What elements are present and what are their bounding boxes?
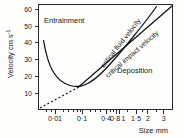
y-tick-label-40: 40 — [24, 39, 32, 46]
y-axis-title-text: Velocity cm s — [6, 34, 15, 78]
y-axis-ticks — [35, 10, 39, 94]
y-tick-label-30: 30 — [24, 56, 32, 63]
y-tick-label-10: 10 — [24, 90, 32, 97]
y-tick-label-20: 20 — [24, 73, 32, 80]
x-axis-tick-labels: 0·01 0·1 0·4 0·8 1 1·5 2 3 — [48, 115, 166, 122]
x-axis-title: Size mm — [139, 126, 168, 135]
x-tick-label-0-8: 0·8 — [110, 115, 120, 122]
x-tick-label-0-1: 0·1 — [77, 115, 87, 122]
y-tick-label-60: 60 — [24, 6, 32, 13]
x-tick-label-2: 2 — [146, 115, 150, 122]
x-tick-label-1: 1 — [122, 115, 126, 122]
x-axis-ticks — [55, 110, 164, 114]
y-tick-label-50: 50 — [24, 23, 32, 30]
x-tick-label-1-5: 1·5 — [131, 115, 141, 122]
series-critical-impact-velocity — [78, 6, 172, 88]
x-tick-label-3: 3 — [162, 115, 166, 122]
velocity-vs-size-chart: 60 50 40 30 20 10 Velocity cm s-1 — [0, 0, 184, 138]
x-tick-label-0-01: 0·01 — [48, 115, 62, 122]
y-axis-title: Velocity cm s-1 — [5, 30, 15, 78]
annotation-entrainment: Entrainment — [44, 16, 85, 25]
y-axis-title-exponent: -1 — [5, 30, 11, 35]
y-axis-title-group: Velocity cm s-1 — [5, 30, 15, 78]
annotation-deposition: Deposition — [117, 66, 152, 75]
figure-container: 60 50 40 30 20 10 Velocity cm s-1 — [0, 0, 184, 138]
y-axis-tick-labels: 60 50 40 30 20 10 — [24, 6, 32, 97]
series-critical-impact-velocity-extrapolated — [40, 88, 78, 109]
